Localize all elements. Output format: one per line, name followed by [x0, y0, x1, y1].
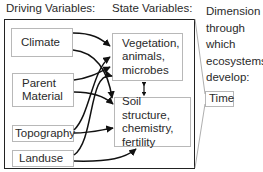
arrow-climate-vegetation: [73, 33, 110, 46]
relationship-arrows: [0, 0, 263, 172]
time-bracket-bottom: [195, 104, 205, 168]
arrow-topography-soil: [74, 128, 113, 133]
arrow-landuse-soil: [74, 149, 136, 161]
time-bracket-top: [195, 19, 205, 94]
